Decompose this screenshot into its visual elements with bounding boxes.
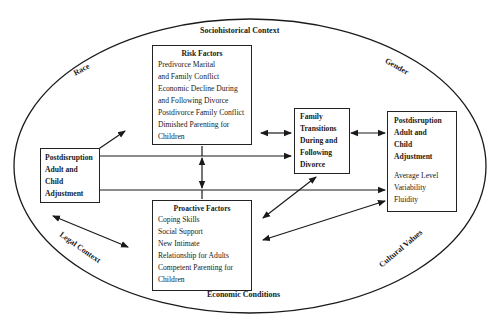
right-adjustment-box: Postdisruption Adult and Child Adjustmen… — [387, 111, 457, 212]
risk-factor-item: Postdivorce Family Conflict — [158, 107, 246, 119]
left-adjustment-box: Postdisruption Adult and Child Adjustmen… — [40, 148, 100, 203]
context-economic: Economic Conditions — [207, 290, 280, 299]
family-transitions-line: Divorce — [300, 159, 344, 171]
proactive-factors-title: Proactive Factors — [158, 204, 246, 214]
risk-factor-item: and Following Divorce — [158, 95, 246, 107]
risk-factor-item: and Family Conflict — [158, 71, 246, 83]
family-transitions-line: During and — [300, 135, 344, 147]
family-transitions-line: Transitions — [300, 123, 344, 135]
family-transitions-box: Family Transitions During and Following … — [294, 108, 350, 174]
proactive-factor-item: Coping Skills — [158, 214, 246, 226]
left-adjustment-line: Adjustment — [45, 188, 95, 200]
right-adjustment-title-line: Postdisruption — [394, 115, 450, 127]
adjustment-measure: Average Level — [394, 170, 450, 182]
right-adjustment-title-line: Child — [394, 139, 450, 151]
adjustment-measure: Fluidity — [394, 194, 450, 206]
proactive-factor-item: Social Support — [158, 226, 246, 238]
arrow-proactive-to-transitions — [263, 177, 316, 218]
risk-factor-item: Predivorce Marital — [158, 59, 246, 71]
context-sociohistorical: Sociohistorical Context — [200, 26, 279, 35]
left-adjustment-line: Child — [45, 176, 95, 188]
risk-factor-item: Dimished Parenting for — [158, 119, 246, 131]
proactive-factor-item: Children — [158, 274, 246, 286]
proactive-factors-box: Proactive Factors Coping Skills Social S… — [152, 200, 252, 291]
risk-factors-title: Risk Factors — [158, 49, 246, 59]
proactive-factor-item: Relationship for Adults — [158, 250, 246, 262]
left-adjustment-line: Postdisruption — [45, 152, 95, 164]
proactive-factor-item: New Intimate — [158, 238, 246, 250]
risk-factors-box: Risk Factors Predivorce Marital and Fami… — [152, 45, 252, 145]
family-transitions-line: Following — [300, 147, 344, 159]
right-adjustment-title-line: Adjustment — [394, 151, 450, 163]
adjustment-measure: Variability — [394, 182, 450, 194]
right-adjustment-title-line: Adult and — [394, 127, 450, 139]
proactive-factor-item: Competent Parenting for — [158, 262, 246, 274]
arrow-proactive-to-right — [263, 201, 385, 240]
risk-factor-item: Children — [158, 131, 246, 143]
left-adjustment-line: Adult and — [45, 164, 95, 176]
family-transitions-line: Family — [300, 111, 344, 123]
risk-factor-item: Economic Decline During — [158, 83, 246, 95]
